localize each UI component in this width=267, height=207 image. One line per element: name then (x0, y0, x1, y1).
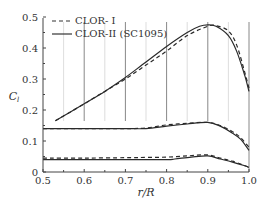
series-middle-clor-1 (43, 122, 249, 147)
series-lower-clor-1 (43, 155, 249, 167)
y-ticks: 00.10.20.30.40.5 (22, 12, 46, 178)
y-tick-label: 0.3 (22, 74, 38, 85)
x-tick-label: 0.9 (200, 175, 216, 186)
legend-label-clor-2: CLOR-II (SC1095) (75, 28, 167, 39)
y-tick-label: 0 (32, 167, 38, 178)
x-axis-label: r/R (137, 186, 154, 199)
x-tick-label: 0.7 (117, 175, 133, 186)
legend: CLOR- I CLOR-II (SC1095) (52, 15, 167, 39)
y-axis-label: Cl (9, 90, 20, 104)
y-tick-label: 0.1 (22, 136, 38, 147)
y-tick-label: 0.2 (22, 105, 38, 116)
legend-label-clor-1: CLOR- I (75, 15, 116, 26)
x-tick-label: 1.0 (241, 175, 257, 186)
x-tick-label: 0.8 (159, 175, 175, 186)
series-middle-clor-2 (43, 122, 249, 150)
line-chart: 0.50.60.70.80.91.0 00.10.20.30.40.5 r/R … (0, 0, 267, 207)
y-tick-label: 0.4 (22, 43, 38, 54)
y-tick-label: 0.5 (22, 12, 38, 23)
x-tick-label: 0.6 (76, 175, 92, 186)
vertical-grid-lines (64, 22, 249, 172)
